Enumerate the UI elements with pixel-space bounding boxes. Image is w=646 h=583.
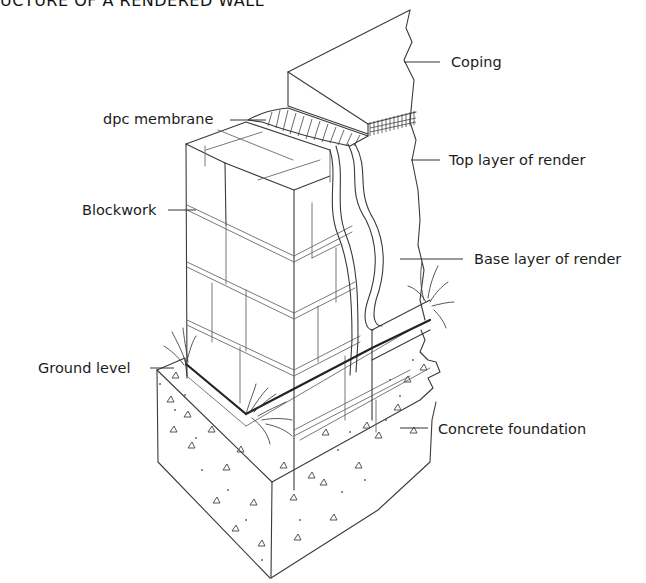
- label-coping: Coping: [451, 53, 502, 71]
- dpc-membrane: [248, 108, 368, 146]
- rendered-wall-illustration: [0, 0, 646, 583]
- label-blockwork: Blockwork: [82, 201, 156, 219]
- label-concrete-foundation: Concrete foundation: [438, 420, 586, 438]
- label-top-layer-of-render: Top layer of render: [449, 151, 586, 169]
- label-ground-level: Ground level: [38, 359, 130, 377]
- ground-line: [186, 320, 430, 414]
- label-base-layer-of-render: Base layer of render: [474, 250, 621, 268]
- coping: [288, 10, 416, 136]
- blockwork: [186, 122, 410, 490]
- grass-tufts: [164, 262, 454, 444]
- label-dpc-membrane: dpc membrane: [103, 110, 213, 128]
